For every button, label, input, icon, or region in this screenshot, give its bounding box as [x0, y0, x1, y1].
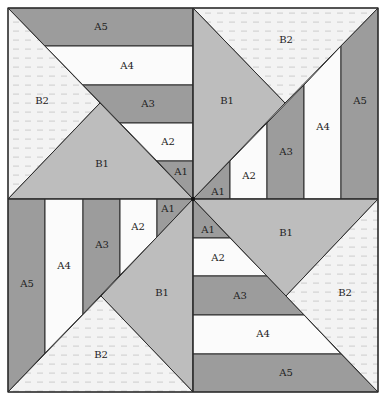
- label-b2: B2: [94, 349, 108, 360]
- label-a2: A2: [130, 221, 145, 232]
- label-a1: A1: [173, 166, 188, 177]
- label-a2: A2: [160, 136, 175, 147]
- label-a4: A4: [119, 60, 134, 71]
- center-point: [191, 197, 195, 201]
- label-a4: A4: [255, 328, 270, 339]
- label-a5: A5: [19, 278, 34, 289]
- label-a5: A5: [93, 21, 108, 32]
- label-b2: B2: [35, 95, 49, 106]
- quadrant-top-right: A1 A2 A3 A4 A5 B2 B1: [193, 8, 378, 199]
- quadrant-top-left: A5 A4 A3 A2 A1 B2 B1: [8, 8, 193, 199]
- label-a5: A5: [352, 95, 367, 106]
- label-b1: B1: [155, 287, 169, 298]
- label-a1: A1: [200, 224, 215, 235]
- label-b2: B2: [338, 287, 352, 298]
- quadrant-bottom-left: A5 A4 A3 A2 A1 B1 B2: [8, 199, 193, 392]
- label-a5: A5: [278, 367, 293, 378]
- quadrant-bottom-right: A1 A2 A3 A4 A5 B1 B2: [193, 199, 378, 392]
- label-b1: B1: [95, 158, 109, 169]
- label-a3: A3: [94, 239, 109, 250]
- label-a1: A1: [160, 203, 175, 214]
- label-a2: A2: [241, 170, 256, 181]
- label-b2: B2: [279, 34, 293, 45]
- label-a2: A2: [210, 252, 225, 263]
- label-a3: A3: [278, 146, 293, 157]
- quilt-block-diagram: A5 A4 A3 A2 A1 B2 B1 A1 A2 A3 A4 A5 B2 B…: [0, 0, 384, 404]
- label-a3: A3: [140, 98, 155, 109]
- label-a3: A3: [232, 290, 247, 301]
- label-a4: A4: [315, 121, 330, 132]
- label-b1: B1: [279, 227, 293, 238]
- label-b1: B1: [220, 95, 234, 106]
- label-a1: A1: [210, 186, 225, 197]
- label-a4: A4: [56, 260, 71, 271]
